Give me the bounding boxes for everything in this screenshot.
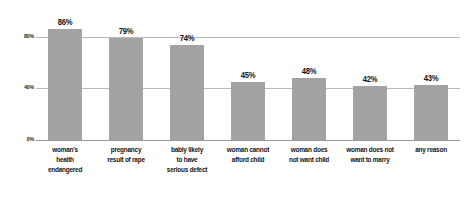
x-axis-label-1-line-1: result of rape [97,155,154,165]
x-axis-label-2: bably likely to have serious defect [158,145,215,175]
x-axis-label-0: woman's health endangered [36,145,93,175]
x-axis-label-2-line-2: serious defect [158,165,215,175]
x-axis-label-5-line-0: woman does not [341,145,398,155]
x-axis-label-5: woman does not want to marry [341,145,398,165]
x-axis-label-0-line-0: woman's [36,145,93,155]
bar-5[interactable] [353,86,387,140]
x-axis-label-3-line-1: afford child [219,155,276,165]
bar-value-0: 86% [39,17,91,27]
x-axis-label-6: any reason [402,145,459,155]
x-axis-label-6-line-0: any reason [402,145,459,155]
x-axis-label-3-line-0: woman cannot [219,145,276,155]
bar-value-4: 48% [283,66,335,76]
x-axis-label-1: pregnancy result of rape [97,145,154,165]
bar-6[interactable] [414,85,448,140]
bar-3[interactable] [231,82,265,140]
x-axis-label-3: woman cannot afford child [219,145,276,165]
x-axis-label-0-line-2: endangered [36,165,93,175]
x-axis-label-5-line-1: want to marry [341,155,398,165]
bar-4[interactable] [292,78,326,140]
bar-value-6: 43% [405,73,457,83]
bar-value-3: 45% [222,70,274,80]
bar-2[interactable] [170,45,204,140]
x-axis-label-4-line-0: woman does [280,145,337,155]
x-axis-label-2-line-1: to have [158,155,215,165]
bar-1[interactable] [109,38,143,140]
x-axis-label-4: woman does not want child [280,145,337,165]
bar-value-5: 42% [344,74,396,84]
x-axis-label-1-line-0: pregnancy [97,145,154,155]
x-axis-label-2-line-0: bably likely [158,145,215,155]
bar-value-1: 79% [100,26,152,36]
bar-chart: 80% 40% 0% 86% 79% 74% 45% 48% [0,0,464,201]
bar-value-2: 74% [161,33,213,43]
bar-0[interactable] [48,29,82,140]
x-axis-label-4-line-1: not want child [280,155,337,165]
x-axis-label-0-line-1: health [36,155,93,165]
